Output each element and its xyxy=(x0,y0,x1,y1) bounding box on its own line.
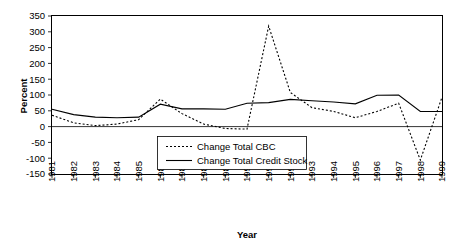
legend-label-change-total-cbc: Change Total CBC xyxy=(197,141,276,152)
x-axis-tick-label: 1996 xyxy=(371,161,382,182)
y-axis-title: Percent xyxy=(18,78,29,114)
legend-label-change-total-credit-stock: Change Total Credit Stock xyxy=(197,155,307,166)
y-axis-tick-label: 50 xyxy=(34,105,45,116)
x-axis-tick-label: 1981 xyxy=(46,161,57,182)
line-chart: -150-100-50050100150200250300350 1981198… xyxy=(0,0,455,242)
y-axis-tick-label: 350 xyxy=(29,10,45,21)
y-axis-tick-label: -150 xyxy=(26,168,45,179)
x-axis-tick-label: 1995 xyxy=(350,161,361,182)
x-axis-tick-label: 1994 xyxy=(328,161,339,182)
y-axis-tick-label: 0 xyxy=(40,121,45,132)
x-axis-tick-label: 1997 xyxy=(393,161,404,182)
x-axis-tick-label: 1993 xyxy=(306,161,317,182)
x-axis-tick-label: 1983 xyxy=(90,161,101,182)
y-axis-tick-label: 200 xyxy=(29,58,45,69)
x-axis-tick-label: 1982 xyxy=(68,161,79,182)
chart-container: -150-100-50050100150200250300350 1981198… xyxy=(0,0,455,242)
x-axis-tick-label: 1984 xyxy=(111,161,122,182)
y-axis-tick-label: -50 xyxy=(31,137,45,148)
y-axis-tick-label: 300 xyxy=(29,26,45,37)
x-axis-title: Year xyxy=(237,229,257,240)
y-axis-tick-label: -100 xyxy=(26,153,45,164)
chart-legend: Change Total CBC Change Total Credit Sto… xyxy=(158,137,308,170)
x-axis-tick-label: 1985 xyxy=(133,161,144,182)
y-axis-tick-label: 100 xyxy=(29,89,45,100)
x-axis-tick-label: 1998 xyxy=(415,161,426,182)
y-axis-tick-label: 250 xyxy=(29,42,45,53)
x-axis-tick-label: 1999 xyxy=(436,161,447,182)
y-axis-tick-label: 150 xyxy=(29,74,45,85)
